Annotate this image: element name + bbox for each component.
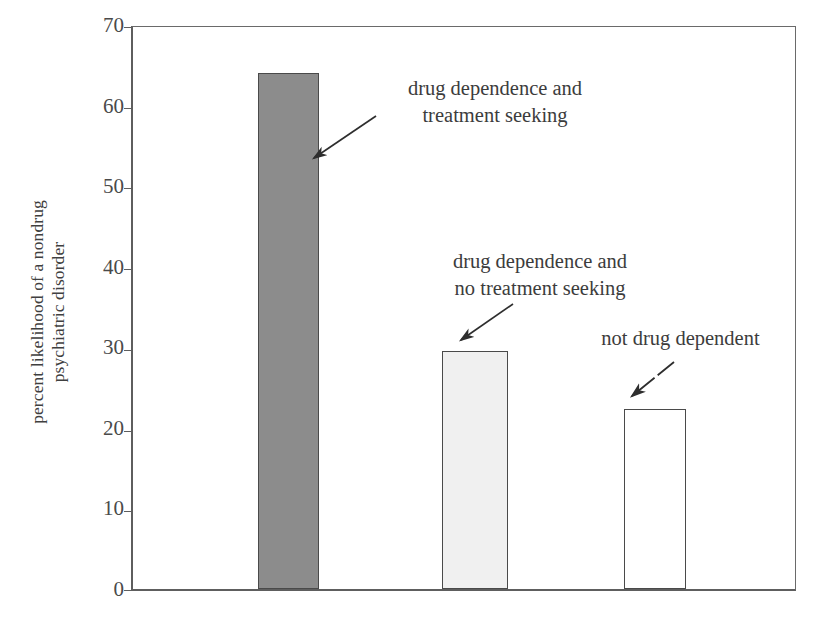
y-tick-label-10: 10 [84,498,124,519]
y-tick-label-50: 50 [84,176,124,197]
annotation-2-line-2: no treatment seeking [415,275,665,302]
y-tick-label-30: 30 [84,337,124,358]
annotation-2-arrow [445,300,535,350]
annotation-drug-dependence-no-treatment-seeking: drug dependence and no treatment seeking [415,248,665,302]
y-axis-label-line-2: psychiatric disorder [48,200,69,424]
y-axis-tick-labels: 70 60 50 40 30 20 10 0 [76,0,124,623]
annotation-3-line-1: not drug dependent [568,325,793,352]
y-tick-mark-50 [124,188,133,189]
bar-drug-dependence-no-treatment-seeking [442,351,508,589]
bar-not-drug-dependent [624,409,686,589]
bar-chart-figure: percent likelihood of a nondrug psychiat… [0,0,816,623]
y-tick-mark-40 [124,269,133,270]
annotation-1-line-1: drug dependence and [370,75,620,102]
y-axis-label-line-1: percent likelihood of a nondrug [27,200,48,424]
annotation-1-arrow [300,110,390,170]
annotation-3-arrow [620,358,700,408]
y-tick-mark-60 [124,108,133,109]
y-tick-mark-0 [124,590,133,591]
annotation-2-line-1: drug dependence and [415,248,665,275]
y-tick-label-40: 40 [84,257,124,278]
y-tick-label-0: 0 [84,579,124,600]
y-tick-mark-20 [124,431,133,432]
y-tick-mark-10 [124,511,133,512]
annotation-not-drug-dependent: not drug dependent [568,325,793,352]
annotation-1-line-2: treatment seeking [370,102,620,129]
annotation-drug-dependence-treatment-seeking: drug dependence and treatment seeking [370,75,620,129]
y-tick-label-60: 60 [84,96,124,117]
y-tick-label-20: 20 [84,418,124,439]
y-tick-mark-30 [124,350,133,351]
y-tick-mark-70 [124,27,133,28]
y-tick-label-70: 70 [84,15,124,36]
